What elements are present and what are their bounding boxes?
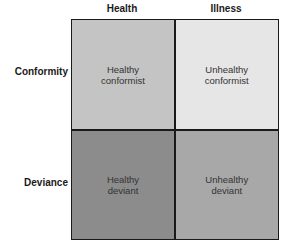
cell-label-line1: Healthy xyxy=(107,64,139,75)
cell-label-line1: Unhealthy xyxy=(205,174,248,185)
cell-label-line2: deviant xyxy=(108,185,139,196)
row-header-deviance: Deviance xyxy=(0,177,68,188)
cell-healthy-conformist: Healthyconformist xyxy=(72,20,174,129)
cell-unhealthy-conformist: Unhealthyconformist xyxy=(176,20,279,129)
cell-label-line1: Unhealthy xyxy=(205,64,248,75)
matrix-grid: Healthyconformist Unhealthyconformist He… xyxy=(71,19,279,240)
column-header-health: Health xyxy=(71,3,173,14)
cell-label-line2: deviant xyxy=(211,185,242,196)
horizontal-divider xyxy=(72,129,278,131)
cell-label-line2: conformist xyxy=(205,75,249,86)
cell-label-line1: Healthy xyxy=(107,174,139,185)
cell-healthy-deviant: Healthydeviant xyxy=(72,131,174,240)
row-header-conformity: Conformity xyxy=(0,66,68,77)
cell-unhealthy-deviant: Unhealthydeviant xyxy=(176,131,279,240)
cell-label-line2: conformist xyxy=(101,75,145,86)
column-header-illness: Illness xyxy=(175,3,277,14)
